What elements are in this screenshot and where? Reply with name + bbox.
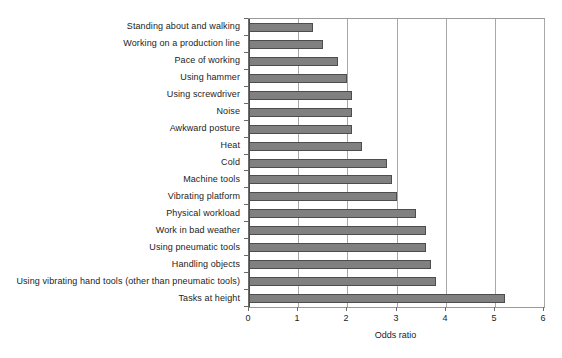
x-axis-title: Odds ratio [248,330,543,341]
category-tick [244,238,248,239]
value-tick [297,307,298,311]
gridline [446,19,447,307]
category-label: Heat [221,140,240,150]
category-tick [244,18,248,19]
category-tick [244,137,248,138]
category-label: Machine tools [183,174,240,184]
category-label: Pace of working [174,55,240,65]
category-tick [244,272,248,273]
odds-ratio-bar-chart: Standing about and walkingWorking on a p… [0,0,562,358]
category-tick [244,187,248,188]
value-tick [396,307,397,311]
gridline [495,19,496,307]
category-tick [244,35,248,36]
bar [249,294,505,303]
category-label: Using vibrating hand tools (other than p… [16,276,240,286]
bar [249,243,426,252]
bar [249,226,426,235]
bar [249,277,436,286]
category-tick [244,86,248,87]
category-label: Cold [221,157,240,167]
gridline [544,19,545,307]
value-tick-label: 2 [343,313,348,324]
category-tick [244,255,248,256]
bar [249,142,362,151]
category-label: Using hammer [180,72,240,82]
category-tick [244,154,248,155]
category-label: Standing about and walking [127,21,240,31]
bar [249,192,397,201]
value-tick-label: 3 [393,313,398,324]
category-label: Awkward posture [170,123,240,133]
bar [249,175,392,184]
value-tick-label: 4 [442,313,447,324]
value-tick-label: 5 [491,313,496,324]
value-tick [543,307,544,311]
category-tick [244,52,248,53]
category-label: Vibrating platform [168,191,240,201]
category-tick [244,120,248,121]
category-tick [244,221,248,222]
bar [249,57,338,66]
category-label: Working on a production line [123,38,240,48]
category-axis-labels: Standing about and walkingWorking on a p… [0,18,244,306]
category-tick [244,69,248,70]
bar [249,260,431,269]
bar [249,74,347,83]
bar [249,91,352,100]
value-tick [494,307,495,311]
value-tick-label: 6 [540,313,545,324]
value-tick-label: 1 [294,313,299,324]
category-label: Handling objects [172,259,240,269]
bar [249,40,323,49]
category-label: Physical workload [166,208,240,218]
category-tick [244,204,248,205]
category-label: Using pneumatic tools [149,242,240,252]
bar [249,209,416,218]
category-tick [244,103,248,104]
value-tick [445,307,446,311]
category-label: Noise [216,106,240,116]
category-tick [244,170,248,171]
category-axis-ticks [244,18,248,306]
value-tick [248,307,249,311]
plot-area [248,18,545,308]
bar [249,159,387,168]
category-label: Using screwdriver [167,89,240,99]
bar [249,108,352,117]
bar [249,125,352,134]
bar [249,23,313,32]
category-label: Tasks at height [178,293,240,303]
value-tick [346,307,347,311]
category-label: Work in bad weather [156,225,240,235]
value-axis-tick-labels: 0123456 [248,313,543,327]
category-tick [244,289,248,290]
value-tick-label: 0 [245,313,250,324]
